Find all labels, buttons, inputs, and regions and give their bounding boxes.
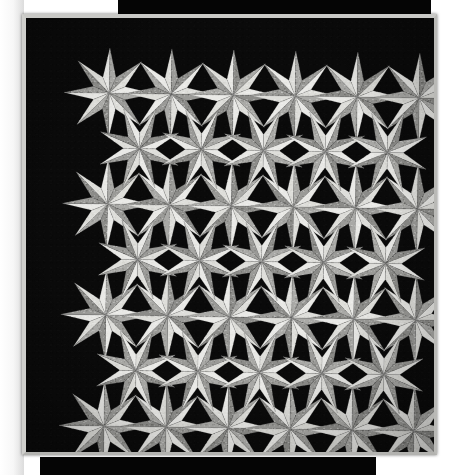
photo-backdrop-bottom-strip xyxy=(40,457,376,475)
quilt-pieced-field xyxy=(22,14,437,455)
quilt-blocks-svg xyxy=(22,14,437,455)
photo-left-margin xyxy=(0,0,24,475)
quilt-photograph xyxy=(0,0,460,475)
quilt xyxy=(22,14,437,455)
